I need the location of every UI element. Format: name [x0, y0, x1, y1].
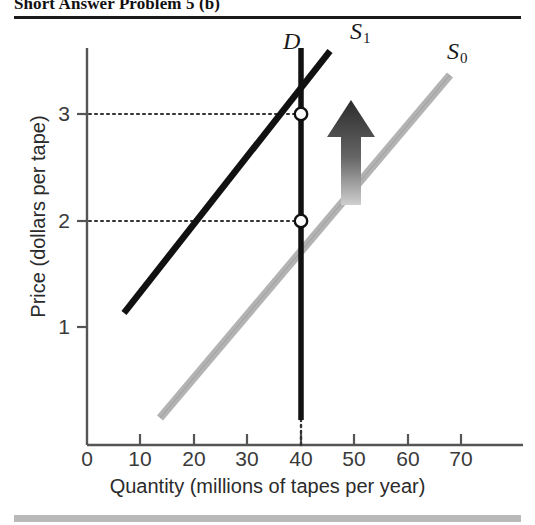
curve-label-demand: D: [283, 28, 300, 55]
x-axis-title: Quantity (millions of tapes per year): [0, 475, 535, 498]
x-tick-label-60: 60: [388, 447, 428, 471]
curve-label-supply-old: S0: [447, 38, 467, 65]
footer-bar: [14, 515, 521, 522]
x-tick-label-30: 30: [227, 447, 267, 471]
x-tick-label-10: 10: [120, 447, 160, 471]
y-axis-ticks: [77, 114, 87, 327]
supply-curve-s0-edge: [160, 75, 450, 418]
x-tick-label-70: 70: [441, 447, 481, 471]
curve-label-supply-old-letter: S: [447, 38, 459, 64]
curve-label-supply-new-sub: 1: [363, 30, 371, 46]
shift-arrow: [327, 100, 375, 205]
x-tick-label-20: 20: [174, 447, 214, 471]
x-tick-label-0: 0: [67, 447, 107, 471]
equilibrium-marker-original: [295, 215, 307, 227]
equilibrium-marker-new: [295, 108, 307, 120]
curve-label-supply-new: S1: [350, 18, 370, 45]
chart-canvas: [0, 20, 535, 515]
title-divider: [14, 16, 521, 19]
curve-label-supply-new-letter: S: [350, 18, 362, 44]
curve-label-supply-old-sub: 0: [460, 50, 468, 66]
dotted-guide-lines: [89, 114, 301, 445]
supply-demand-chart: 0 10 20 30 40 50 60 70 3 2 1 Quantity (m…: [0, 20, 535, 515]
page-title: Short Answer Problem 5 (b): [14, 0, 220, 14]
x-tick-label-50: 50: [334, 447, 374, 471]
y-axis-title: Price (dollars per tape): [27, 87, 50, 347]
x-tick-label-40: 40: [281, 447, 321, 471]
